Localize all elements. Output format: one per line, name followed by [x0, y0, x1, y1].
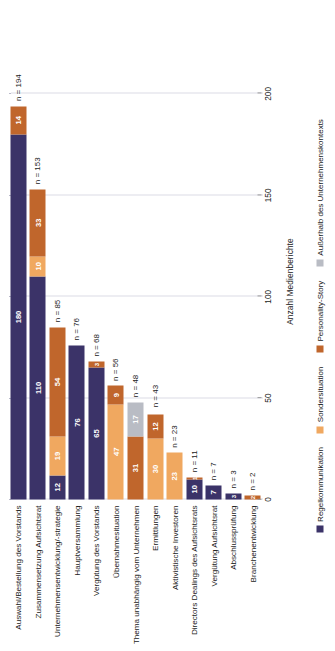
bar-segment[interactable]: 76 [68, 345, 84, 499]
bar-segment[interactable]: 33 [29, 189, 45, 256]
stacked-bar[interactable]: 3012 [147, 414, 163, 499]
x-axis-title: Anzahl Medienberichte [284, 63, 294, 499]
stacked-bar[interactable]: 101 [186, 477, 202, 499]
category-label: Zusammensetzung Aufsichtsrat [29, 505, 45, 618]
stacked-bar[interactable]: 3117 [127, 402, 143, 499]
bar-value-label: 47 [112, 447, 120, 455]
bar-row: 121954n = 85 [49, 63, 65, 499]
bar-value-label: 9 [112, 392, 120, 396]
legend-item[interactable]: Regelkommunikation [315, 447, 324, 533]
bar-segment[interactable]: 17 [127, 402, 143, 436]
legend-item[interactable]: Außerhalb des Unternehmenskontexts [315, 119, 324, 267]
axis-tick-label: 200 [262, 87, 272, 101]
bar-total-label: n = 7 [209, 462, 218, 485]
bar-value-label: 30 [151, 464, 159, 472]
bar-value-label: 17 [131, 415, 139, 423]
bar-total-label: n = 3 [228, 470, 237, 493]
bar-value-label: 33 [34, 218, 42, 226]
bar-value-label: 180 [14, 310, 22, 323]
bar-value-label: 110 [34, 381, 42, 393]
legend-label: Sondersituation [315, 366, 324, 422]
legend-swatch [316, 525, 323, 532]
legend-swatch [316, 426, 323, 433]
bar-segment[interactable]: 19 [49, 436, 65, 475]
category-axis: Auswahl/Bestellung des VorstandsZusammen… [8, 499, 262, 651]
bar-row: 7n = 7 [205, 63, 221, 499]
bar-chart-figure: Auswahl/Bestellung des VorstandsZusammen… [0, 0, 335, 651]
bar-total-label: n = 2 [248, 472, 257, 495]
bar-total-label: n = 194 [13, 74, 22, 106]
axis-tick-mark [257, 92, 261, 93]
category-label: Hauptversammlung [68, 505, 84, 575]
bar-segment[interactable]: 47 [107, 404, 123, 499]
bar-segment[interactable]: 65 [88, 367, 104, 499]
bar-row: 76n = 76 [68, 63, 84, 499]
legend-label: Personality-Story [315, 280, 324, 341]
legend-label: Regelkommunikation [315, 447, 324, 522]
bar-total-label: n = 85 [52, 299, 61, 326]
stacked-bar[interactable]: 3 [225, 493, 241, 499]
bar-row: 653n = 68 [88, 63, 104, 499]
bar-segment[interactable]: 7 [205, 485, 221, 499]
axis-tick-mark [257, 295, 261, 296]
bar-segment[interactable]: 10 [29, 256, 45, 276]
bar-row: 3117n = 48 [127, 63, 143, 499]
bar-value-label: 3 [93, 362, 99, 365]
bar-segment[interactable]: 23 [166, 452, 182, 499]
stacked-bar[interactable]: 7 [205, 485, 221, 499]
legend-item[interactable]: Personality-Story [315, 280, 324, 352]
bar-segment[interactable]: 30 [147, 438, 163, 499]
bar-segment[interactable]: 12 [147, 414, 163, 438]
category-label: Abschlussprüfung [225, 505, 241, 569]
bar-value-label: 7 [209, 490, 217, 494]
stacked-bar[interactable]: 479 [107, 385, 123, 499]
axis-tick-label: 150 [262, 188, 272, 202]
category-label: Vergütung des Vorstands [88, 505, 104, 595]
bar-row: 23n = 23 [166, 63, 182, 499]
bar-value-label: 10 [34, 262, 42, 270]
bar-value-label: 76 [73, 418, 81, 426]
bar-row: 3n = 3 [225, 63, 241, 499]
legend-swatch [316, 259, 323, 266]
bar-total-label: n = 11 [189, 450, 198, 477]
bar-total-label: n = 48 [131, 374, 140, 401]
bar-segment[interactable]: 9 [107, 385, 123, 403]
category-label: Thema unabhängig vom Unternehmen [127, 505, 143, 644]
bar-value-label: 23 [170, 471, 178, 479]
stacked-bar[interactable]: 23 [166, 452, 182, 499]
stacked-bar[interactable]: 76 [68, 345, 84, 499]
stacked-bar[interactable]: 1101033 [29, 189, 45, 499]
axis-tick-mark [257, 498, 261, 499]
bar-segment[interactable]: 12 [49, 475, 65, 499]
bar-segment[interactable]: 110 [29, 276, 45, 499]
bar-row: 18014n = 194 [10, 63, 26, 499]
bar-value-label: 10 [190, 485, 198, 493]
axis-tick-label: 100 [262, 289, 272, 303]
bar-segment[interactable]: 31 [127, 436, 143, 499]
legend-item[interactable]: Sondersituation [315, 366, 324, 433]
bar-segment[interactable]: 14 [10, 106, 26, 134]
chart-legend: RegelkommunikationSondersituationPersona… [308, 0, 330, 651]
bar-row: 479n = 56 [107, 63, 123, 499]
bar-segment[interactable]: 3 [88, 361, 104, 367]
stacked-bar[interactable]: 653 [88, 361, 104, 499]
bar-row: 101n = 11 [186, 63, 202, 499]
category-label: Vergütung Aufsichtsrat [205, 505, 221, 586]
stacked-bar[interactable]: 18014 [10, 106, 26, 499]
axis-tick-label: 0 [262, 497, 272, 502]
bar-segment[interactable]: 54 [49, 327, 65, 437]
bar-segment[interactable]: 10 [186, 479, 202, 499]
bar-segment[interactable]: 180 [10, 134, 26, 499]
bar-segment[interactable]: 3 [225, 493, 241, 499]
plot-area: 18014n = 1941101033n = 153121954n = 8576… [8, 63, 262, 499]
axis-tick-mark [257, 397, 261, 398]
stacked-bar[interactable]: 121954 [49, 327, 65, 499]
bar-value-label: 65 [92, 429, 100, 437]
bar-total-label: n = 43 [150, 384, 159, 411]
category-label: Unternehmensentwicklung/-strategie [49, 505, 65, 636]
category-label: Übernahmesituation [107, 505, 123, 577]
axis-tick-mark [257, 194, 261, 195]
category-label: Branchenentwicklung [244, 505, 260, 582]
bar-value-label: 3 [230, 494, 236, 497]
bar-value-label: 2 [249, 495, 255, 498]
